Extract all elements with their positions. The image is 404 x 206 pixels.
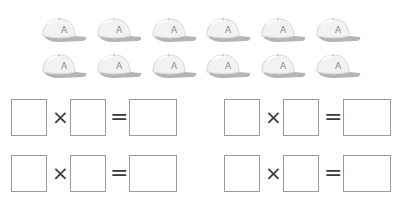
baseball-cap-icon: A [259, 52, 307, 80]
svg-text:A: A [171, 61, 178, 71]
svg-text:A: A [61, 61, 68, 71]
equals-sign: = [324, 154, 338, 191]
baseball-cap-icon: A [95, 16, 143, 44]
multiply-sign: × [265, 155, 279, 192]
svg-text:A: A [225, 25, 232, 35]
baseball-cap-icon: A [150, 52, 198, 80]
svg-text:A: A [335, 61, 342, 71]
svg-text:A: A [61, 25, 68, 35]
baseball-cap-icon: A [204, 52, 252, 80]
multiply-sign: × [265, 99, 279, 136]
product-box[interactable] [343, 155, 391, 192]
svg-text:A: A [171, 25, 178, 35]
baseball-cap-icon: A [204, 16, 252, 44]
product-box[interactable] [129, 99, 177, 136]
baseball-cap-icon: A [40, 16, 88, 44]
baseball-cap-icon: A [150, 16, 198, 44]
svg-text:A: A [335, 25, 342, 35]
baseball-cap-icon: A [40, 52, 88, 80]
svg-text:A: A [280, 61, 287, 71]
baseball-cap-icon: A [314, 16, 362, 44]
baseball-cap-icon: A [314, 52, 362, 80]
product-box[interactable] [343, 99, 391, 136]
equals-sign: = [324, 98, 338, 135]
equals-sign: = [110, 154, 124, 191]
factor-b-box[interactable] [283, 99, 319, 136]
factor-b-box[interactable] [70, 99, 106, 136]
factor-a-box[interactable] [11, 99, 47, 136]
factor-a-box[interactable] [224, 99, 260, 136]
factor-a-box[interactable] [11, 155, 47, 192]
svg-text:A: A [225, 61, 232, 71]
svg-text:A: A [280, 25, 287, 35]
multiply-sign: × [52, 155, 66, 192]
factor-b-box[interactable] [70, 155, 106, 192]
factor-b-box[interactable] [283, 155, 319, 192]
multiply-sign: × [52, 99, 66, 136]
factor-a-box[interactable] [224, 155, 260, 192]
svg-text:A: A [116, 61, 123, 71]
svg-text:A: A [116, 25, 123, 35]
product-box[interactable] [129, 155, 177, 192]
baseball-cap-icon: A [259, 16, 307, 44]
equals-sign: = [110, 98, 124, 135]
baseball-cap-icon: A [95, 52, 143, 80]
